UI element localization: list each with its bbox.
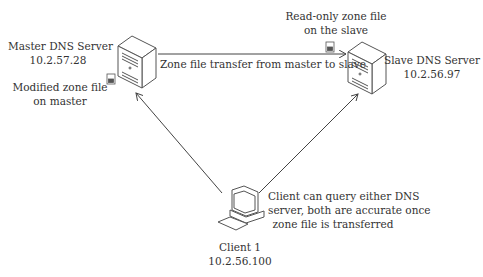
master-file-note-1: Modified zone file [12,81,108,94]
slave-file-note-1: Read-only zone file [281,10,391,23]
master-name: Master DNS Server [8,40,108,53]
transfer-label: Zone file transfer from master to slave [160,58,350,71]
master-server-icon [118,36,156,88]
master-zone-file-icon [107,74,115,84]
client-note-1: Client can query either DNS [268,190,398,203]
client-note-2: server, both are accurate once [268,204,398,217]
client-note-3: zone file is transferred [268,218,398,231]
client-to-master-arrow [136,93,222,193]
client-to-slave-arrow [259,94,358,193]
client-computer-icon [218,186,264,230]
client-ip: 10.2.56.100 [205,255,275,268]
client-name: Client 1 [205,241,275,254]
slave-file-note-2: on the slave [281,24,391,37]
master-file-note-2: on master [12,95,108,108]
slave-ip: 10.2.56.97 [384,68,480,81]
master-ip: 10.2.57.28 [8,54,108,67]
slave-zone-file-icon [326,42,334,52]
slave-name: Slave DNS Server [384,54,480,67]
